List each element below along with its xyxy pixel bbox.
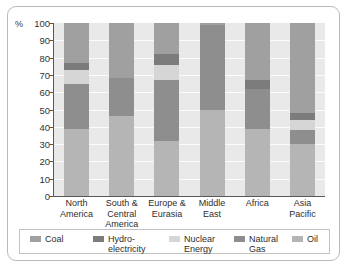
x-axis-label-line: Eurasia — [144, 209, 189, 220]
x-axis-line — [53, 196, 325, 197]
y-axis-tick-50: 50 — [24, 105, 50, 114]
gridline — [54, 75, 325, 76]
x-axis-label-line: Central — [99, 209, 144, 220]
legend-label: Oil — [307, 234, 318, 244]
y-axis-tickmark — [49, 40, 53, 41]
x-axis-label-line: South & — [99, 198, 144, 209]
bar-segment — [290, 113, 315, 120]
gridline — [54, 110, 325, 111]
gridline — [54, 92, 325, 93]
x-axis-label-0: NorthAmerica — [54, 198, 99, 219]
plot-area — [54, 23, 325, 196]
x-axis-label-line: Pacific — [280, 209, 325, 220]
legend-label: Hydro- electricity — [108, 234, 146, 254]
bar-segment — [200, 110, 225, 197]
legend-swatch — [30, 236, 41, 242]
x-axis-label-2: Europe &Eurasia — [144, 198, 189, 219]
y-axis-tickmark — [49, 110, 53, 111]
bar-segment — [290, 144, 315, 196]
bar-segment — [154, 141, 179, 196]
bar-segment — [109, 116, 134, 196]
bar-column — [245, 23, 270, 196]
y-axis-tick-labels: 1009080706050403020100 — [24, 18, 50, 190]
y-axis-tickmark — [49, 23, 53, 24]
y-axis-tickmark — [49, 196, 53, 197]
bar-segment — [154, 80, 179, 141]
x-axis-label-1: South &CentralAmerica — [99, 198, 144, 230]
legend-item-natural-gas[interactable]: Natural Gas — [234, 234, 278, 254]
bar-segment — [154, 54, 179, 64]
gridline — [54, 58, 325, 59]
bar-segment — [245, 89, 270, 129]
y-axis-tickmark — [49, 92, 53, 93]
gridline — [54, 144, 325, 145]
legend-item-coal[interactable]: Coal — [30, 234, 64, 244]
bar-segment — [245, 80, 270, 89]
bar-segment — [200, 23, 225, 25]
legend-swatch — [234, 236, 245, 242]
gridline — [54, 161, 325, 162]
bar-segment — [64, 70, 89, 84]
y-axis-tick-90: 90 — [24, 36, 50, 45]
y-axis-tick-20: 20 — [24, 157, 50, 166]
bar-column — [64, 23, 89, 196]
bar-segment — [109, 23, 134, 78]
y-axis-tick-0: 0 — [24, 192, 50, 201]
gridline — [54, 40, 325, 41]
x-axis-label-5: AsiaPacific — [280, 198, 325, 219]
x-axis-label-line: America — [99, 219, 144, 230]
x-axis-label-line: America — [54, 209, 99, 220]
bar-segment — [64, 129, 89, 196]
x-axis-label-4: Africa — [235, 198, 280, 209]
legend-label: Natural Gas — [249, 234, 278, 254]
y-axis-tick-60: 60 — [24, 88, 50, 97]
x-axis-category-labels: NorthAmericaSouth &CentralAmericaEurope … — [54, 198, 325, 232]
y-axis-title: % — [15, 19, 23, 29]
bar-column — [109, 23, 134, 196]
legend-swatch — [169, 236, 180, 242]
x-axis-label-line: North — [54, 198, 99, 209]
bar-segment — [200, 25, 225, 110]
bar-segment — [64, 23, 89, 63]
y-axis-tickmark — [49, 58, 53, 59]
y-axis-tickmark — [49, 161, 53, 162]
bar-segment — [290, 23, 315, 113]
legend-swatch — [292, 236, 303, 242]
chart-figure: % 1009080706050403020100 NorthAmericaSou… — [7, 6, 340, 261]
y-axis-tickmark — [49, 179, 53, 180]
legend-item-hydro-electricity[interactable]: Hydro- electricity — [93, 234, 146, 254]
gridline — [54, 127, 325, 128]
x-axis-label-line: Middle — [190, 198, 235, 209]
y-axis-tick-10: 10 — [24, 174, 50, 183]
legend-swatch — [93, 236, 104, 242]
y-axis-tickmark — [49, 144, 53, 145]
y-axis-tick-100: 100 — [24, 19, 50, 28]
legend-item-oil[interactable]: Oil — [292, 234, 318, 244]
y-axis-tickmark — [49, 75, 53, 76]
bar-segment — [154, 23, 179, 54]
y-axis-tickmark — [49, 127, 53, 128]
plot-wrapper: % 1009080706050403020100 NorthAmericaSou… — [8, 7, 341, 212]
bar-segment — [290, 130, 315, 144]
gridline — [54, 179, 325, 180]
y-axis-tick-80: 80 — [24, 53, 50, 62]
bar-column — [290, 23, 315, 196]
x-axis-label-line: Africa — [235, 198, 280, 209]
y-axis-tick-40: 40 — [24, 122, 50, 131]
bar-segment — [109, 78, 134, 116]
bar-segment — [64, 84, 89, 129]
bar-segment — [64, 63, 89, 70]
x-axis-label-3: MiddleEast — [190, 198, 235, 219]
y-axis-tick-30: 30 — [24, 140, 50, 149]
x-axis-label-line: Europe & — [144, 198, 189, 209]
legend-label: Nuclear Energy — [184, 234, 215, 254]
chart-legend: CoalHydro- electricityNuclear EnergyNatu… — [19, 229, 330, 254]
legend-item-nuclear-energy[interactable]: Nuclear Energy — [169, 234, 215, 254]
legend-label: Coal — [45, 234, 64, 244]
x-axis-label-line: Asia — [280, 198, 325, 209]
bar-column — [200, 23, 225, 196]
bar-segment — [245, 129, 270, 196]
bar-segment — [245, 23, 270, 80]
bar-column — [154, 23, 179, 196]
bar-segment — [290, 120, 315, 130]
